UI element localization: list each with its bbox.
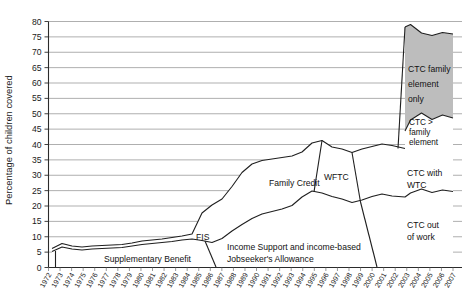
annotation-ctc-family-element-only-line1: CTC family xyxy=(408,64,451,74)
x-tick-label: 2007 xyxy=(442,271,458,289)
y-tick-label: 55 xyxy=(32,93,42,103)
band-ctc-family-element-only xyxy=(405,25,453,132)
y-tick-label: 45 xyxy=(32,124,42,134)
annotation-ctc-gt-family-element-line1: CTC > xyxy=(409,118,433,127)
y-tick-label: 50 xyxy=(32,109,42,119)
y-tick-label: 10 xyxy=(32,232,42,242)
annotation-ctc-with-wtc-line2: WTC xyxy=(407,180,427,190)
y-tick-label: 60 xyxy=(32,78,42,88)
annotation-ctc-gt-family-element-line3: element xyxy=(409,138,439,147)
y-tick-label: 75 xyxy=(32,32,42,42)
y-tick-labels: 05101520253035404550556065707580 xyxy=(32,17,42,273)
annotation-ctc-family-element-only-line2: element xyxy=(408,79,439,89)
stacked-bands xyxy=(52,25,453,268)
annotation-ctc-out-of-work-line2: of work xyxy=(407,232,435,242)
y-tick-label: 20 xyxy=(32,201,42,211)
annotation-income-support-line2: Jobseeker's Allowance xyxy=(227,254,314,264)
annotation-ctc-family-element-only-line3: only xyxy=(408,94,424,104)
y-tick-label: 65 xyxy=(32,63,42,73)
y-tick-label: 80 xyxy=(32,17,42,27)
annotation-ctc-with-wtc-line1: CTC with xyxy=(407,168,443,178)
annotation-supplementary-benefit: Supplementary Benefit xyxy=(104,254,192,264)
y-tick-label: 30 xyxy=(32,170,42,180)
annotation-ctc-gt-family-element-line2: family xyxy=(409,128,431,137)
annotation-family-credit: Family Credit xyxy=(269,178,320,188)
divider-ctc-family-element-left xyxy=(398,27,405,149)
annotation-wftc: WFTC xyxy=(324,172,349,182)
annotation-ctc-out-of-work-line1: CTC out xyxy=(407,220,440,230)
annotation-income-support-line1: Income Support and income-based xyxy=(227,242,361,252)
y-tick-label: 40 xyxy=(32,140,42,150)
area-chart: Percentage of children covered 051015202… xyxy=(0,0,468,301)
y-axis-title: Percentage of children covered xyxy=(3,75,14,205)
y-tick-label: 35 xyxy=(32,155,42,165)
chart-container: Percentage of children covered 051015202… xyxy=(0,0,468,301)
y-tick-label: 0 xyxy=(37,263,42,273)
y-tick-label: 25 xyxy=(32,186,42,196)
y-tick-label: 5 xyxy=(37,247,42,257)
y-tick-label: 15 xyxy=(32,216,42,226)
x-tick-labels: 1972197319741975197619771978197919801981… xyxy=(38,271,458,289)
y-tick-label: 70 xyxy=(32,47,42,57)
annotation-fis: FIS xyxy=(196,232,210,242)
